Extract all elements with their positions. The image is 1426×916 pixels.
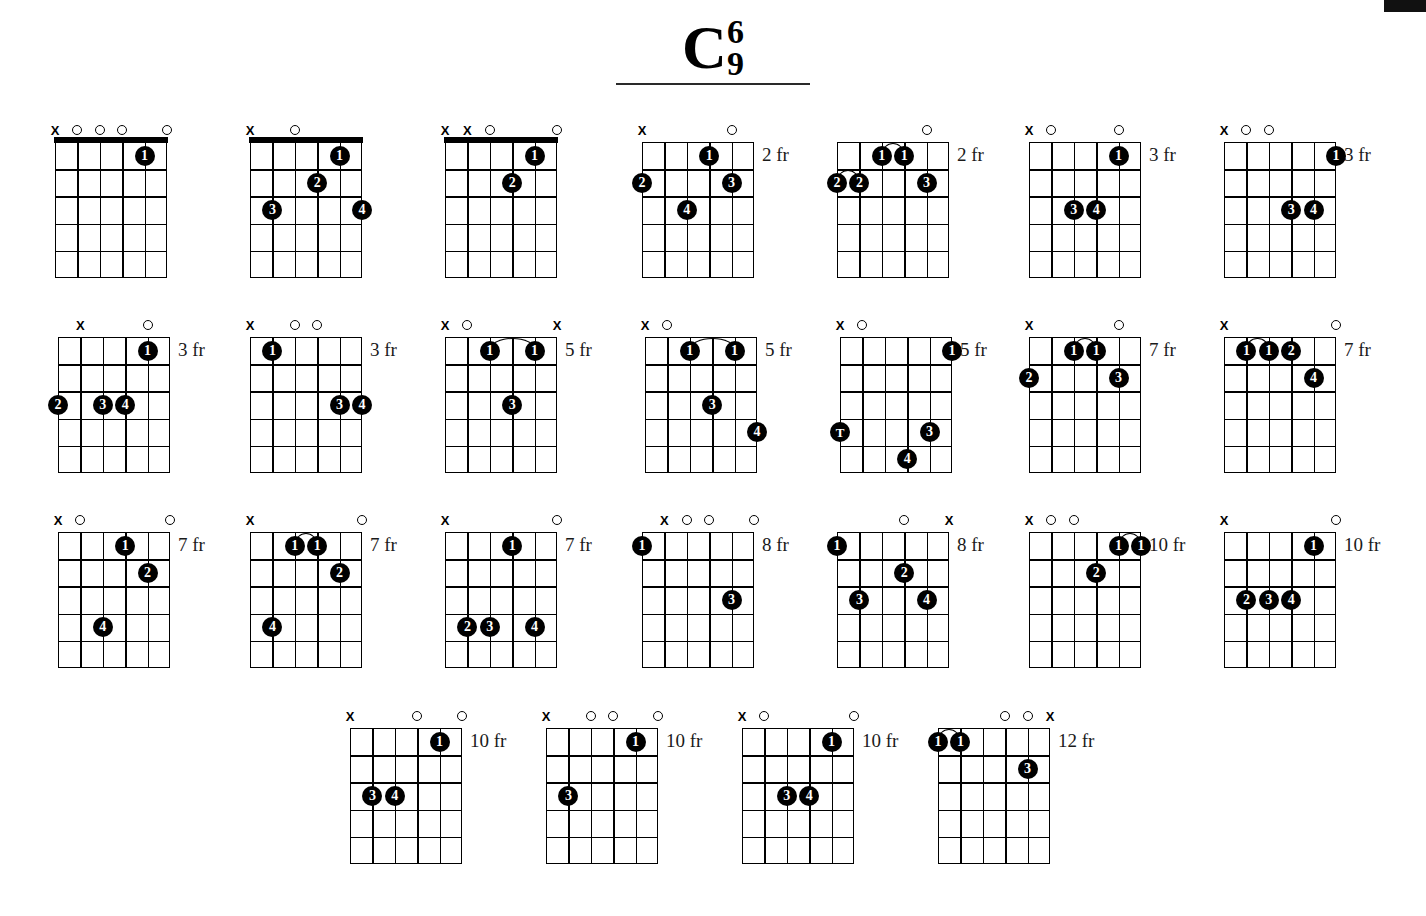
fret-line — [58, 391, 170, 392]
muted-string-marker-icon: X — [439, 319, 451, 332]
fret-line — [58, 446, 170, 447]
fret-line — [837, 614, 949, 615]
fretboard: 13 — [642, 532, 754, 668]
fret-position-label: 7 fr — [1344, 339, 1371, 361]
fret-position-label: 12 fr — [1058, 730, 1094, 752]
fret-line — [1224, 586, 1336, 587]
fret-position-label: 8 fr — [957, 534, 984, 556]
fret-line — [445, 446, 557, 447]
muted-string-marker-icon: X — [244, 124, 256, 137]
finger-dot: 2 — [330, 563, 350, 583]
string-line — [882, 532, 883, 668]
string-line — [732, 142, 733, 278]
string-markers: XX — [445, 319, 557, 335]
finger-dot: 1 — [680, 341, 700, 361]
string-line — [535, 532, 536, 668]
string-line — [272, 532, 273, 668]
muted-string-marker-icon: X — [1023, 124, 1035, 137]
fretboard: 1123 — [1029, 337, 1141, 473]
fret-position-label: 5 fr — [960, 339, 987, 361]
muted-string-marker-icon: X — [658, 514, 670, 527]
string-line — [122, 142, 123, 278]
fret-line — [445, 559, 557, 560]
finger-dot: 3 — [722, 173, 742, 193]
string-line — [103, 532, 104, 668]
fret-line — [642, 169, 754, 170]
finger-dot: 1 — [135, 146, 155, 166]
string-line — [1074, 532, 1075, 668]
finger-dot: 2 — [827, 173, 847, 193]
fret-line — [1029, 251, 1141, 252]
finger-dot: 1 — [632, 536, 652, 556]
string-line — [1028, 728, 1029, 864]
string-line — [490, 142, 491, 278]
fret-position-label: 3 fr — [1149, 144, 1176, 166]
open-string-marker-icon — [1330, 319, 1342, 330]
muted-string-marker-icon: X — [1044, 710, 1056, 723]
open-string-marker-icon — [999, 710, 1011, 721]
fret-line — [250, 251, 362, 252]
finger-dot: 1 — [262, 341, 282, 361]
fret-line — [837, 586, 949, 587]
finger-dot: 1 — [502, 536, 522, 556]
finger-dot: 3 — [1281, 200, 1301, 220]
fret-line — [1224, 251, 1336, 252]
fret-line — [350, 837, 462, 838]
fret-line — [1029, 614, 1141, 615]
finger-dot: 1 — [480, 341, 500, 361]
nut-bar — [444, 137, 558, 143]
string-markers: X — [840, 319, 952, 335]
finger-dot: 2 — [502, 173, 522, 193]
string-line — [1119, 337, 1120, 473]
nut-bar — [54, 137, 168, 143]
fret-line — [445, 251, 557, 252]
fret-line — [250, 391, 362, 392]
string-line — [340, 532, 341, 668]
open-string-marker-icon — [1330, 514, 1342, 525]
finger-dot: 2 — [894, 563, 914, 583]
finger-dot: 3 — [362, 786, 382, 806]
fret-line — [55, 169, 167, 170]
muted-string-marker-icon: X — [74, 319, 86, 332]
fretboard: 1234 — [250, 142, 362, 278]
fretboard: 124 — [58, 532, 170, 668]
fret-line — [445, 419, 557, 420]
muted-string-marker-icon: X — [636, 124, 648, 137]
fretboard: 1234 — [1224, 532, 1336, 668]
fretboard: 13 — [546, 728, 658, 864]
fret-line — [1224, 614, 1336, 615]
string-markers: X — [546, 710, 658, 726]
string-markers: X — [1029, 319, 1141, 335]
fret-line — [58, 586, 170, 587]
finger-dot: 1 — [822, 732, 842, 752]
fret-line — [55, 224, 167, 225]
finger-dot: 1 — [1326, 146, 1346, 166]
fret-line — [642, 641, 754, 642]
fret-line — [1224, 364, 1336, 365]
fret-line — [350, 810, 462, 811]
string-line — [1246, 142, 1247, 278]
string-line — [687, 532, 688, 668]
finger-dot: 1 — [115, 536, 135, 556]
string-markers: X — [642, 124, 754, 140]
finger-dot: 1 — [525, 146, 545, 166]
string-line — [1005, 728, 1006, 864]
fretboard: 1234 — [837, 532, 949, 668]
finger-dot: 3 — [1018, 759, 1038, 779]
fret-line — [837, 224, 949, 225]
finger-dot: 2 — [1019, 368, 1039, 388]
string-line — [100, 142, 101, 278]
fretboard: 134 — [1224, 142, 1336, 278]
fretboard: 1234 — [445, 532, 557, 668]
fretboard-outline — [1029, 337, 1141, 473]
fretboard-outline — [840, 337, 952, 473]
fret-position-label: 3 fr — [370, 339, 397, 361]
finger-dot: 3 — [1259, 590, 1279, 610]
finger-dot: 1 — [1236, 341, 1256, 361]
fret-line — [1029, 419, 1141, 420]
fret-line — [546, 837, 658, 838]
fret-line — [250, 224, 362, 225]
fret-line — [642, 586, 754, 587]
fretboard: 1124 — [1224, 337, 1336, 473]
finger-dot: 4 — [385, 786, 405, 806]
